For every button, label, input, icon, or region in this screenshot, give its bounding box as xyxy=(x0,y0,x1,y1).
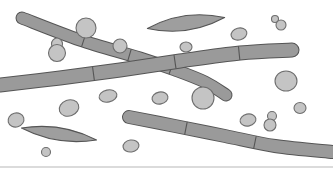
yeast-cell-top-right-mother xyxy=(276,20,286,30)
blastospore-chain-left-large xyxy=(49,45,66,62)
yeast-cell-far-right-small xyxy=(294,103,306,114)
figure-canvas xyxy=(0,0,333,171)
microbiology-illustration xyxy=(0,0,333,171)
yeast-cell-lower-right-mother xyxy=(264,119,276,131)
yeast-cell-center-small xyxy=(180,42,192,52)
blastospore-attached-upper-2 xyxy=(113,39,127,53)
yeast-cell-bottom-left-tiny xyxy=(42,148,51,157)
blastospore-attached-upper-1 xyxy=(76,18,96,38)
yeast-cell-right-large xyxy=(275,71,297,91)
blastospore-attached-diagonal-end xyxy=(192,87,214,109)
